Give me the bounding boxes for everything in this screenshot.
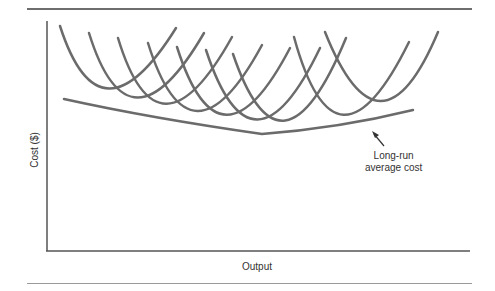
bottom-rule [27,283,472,284]
x-axis-label: Output [242,261,272,272]
short-run-curves [60,26,438,121]
long-run-average-cost-curve [64,99,413,134]
annotation-line-2: average cost [365,162,422,174]
short-run-curve-3 [118,37,232,104]
y-axis-label: Cost ($) [29,132,40,168]
annotation-line-1: Long-run [365,150,422,162]
short-run-curve-9 [325,32,438,101]
annotation-arrow-icon [372,131,384,146]
chart-plot [0,0,495,291]
short-run-curve-1 [60,26,176,89]
short-run-curve-6 [206,48,320,120]
long-run-annotation: Long-run average cost [365,150,422,174]
